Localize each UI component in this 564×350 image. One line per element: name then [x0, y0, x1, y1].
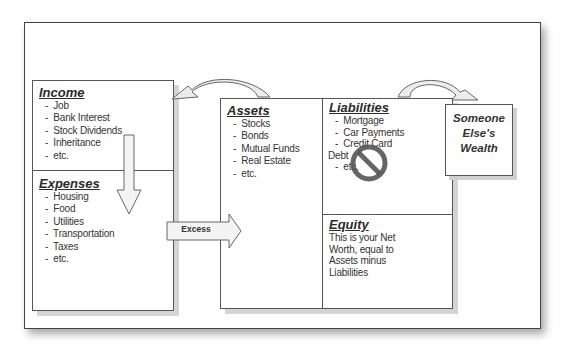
- expenses-section: Expenses Housing Food Utilities Transpor…: [33, 172, 173, 269]
- income-item: Job: [45, 100, 167, 112]
- wealth-line3: Wealth: [446, 141, 512, 156]
- assets-item: Stocks: [233, 118, 317, 130]
- assets-list: Stocks Bonds Mutual Funds Real Estate et…: [227, 118, 317, 180]
- wealth-line1: Someone: [446, 111, 512, 126]
- income-expenses-box: Income Job Bank Interest Stock Dividends…: [32, 80, 174, 311]
- expenses-item: Transportation: [45, 228, 167, 240]
- expenses-item: Utilities: [45, 216, 167, 228]
- assets-item: Bonds: [233, 130, 317, 142]
- wealth-line2: Else's: [446, 126, 512, 141]
- liabilities-item: Mortgage: [335, 115, 446, 127]
- balance-sheet-box: Assets Stocks Bonds Mutual Funds Real Es…: [220, 98, 453, 309]
- assets-heading: Assets: [227, 103, 317, 118]
- income-heading: Income: [39, 85, 167, 100]
- equity-section: Equity This is your Net Worth, equal to …: [323, 215, 452, 282]
- liabilities-section: Liabilities Mortgage Car Payments Credit…: [323, 99, 452, 177]
- income-item: Stock Dividends: [45, 125, 167, 137]
- assets-item: Mutual Funds: [233, 143, 317, 155]
- liabilities-item: etc.: [335, 161, 446, 173]
- income-section: Income Job Bank Interest Stock Dividends…: [33, 81, 173, 166]
- someone-elses-wealth-box: Someone Else's Wealth: [445, 104, 513, 176]
- liabilities-item: Car Payments: [335, 127, 446, 139]
- assets-section: Assets Stocks Bonds Mutual Funds Real Es…: [221, 99, 323, 184]
- expenses-item: Taxes: [45, 241, 167, 253]
- assets-item: Real Estate: [233, 155, 317, 167]
- income-item: etc.: [45, 150, 167, 162]
- income-item: Bank Interest: [45, 112, 167, 124]
- liabilities-item: Credit Card: [335, 138, 446, 150]
- assets-item: etc.: [233, 168, 317, 180]
- liabilities-tail-list: etc.: [329, 161, 446, 173]
- expenses-item: etc.: [45, 253, 167, 265]
- income-item: Inheritance: [45, 137, 167, 149]
- expenses-heading: Expenses: [39, 176, 167, 191]
- liabilities-list: Mortgage Car Payments Credit Card: [329, 115, 446, 150]
- excess-label: Excess: [172, 224, 220, 234]
- liabilities-heading: Liabilities: [329, 100, 446, 115]
- equity-heading: Equity: [329, 217, 446, 232]
- equity-description: This is your Net Worth, equal to Assets …: [329, 232, 405, 278]
- income-expenses-divider: [33, 170, 173, 171]
- expenses-list: Housing Food Utilities Transportation Ta…: [39, 191, 167, 265]
- expenses-item: Food: [45, 203, 167, 215]
- income-list: Job Bank Interest Stock Dividends Inheri…: [39, 100, 167, 162]
- liabilities-continuation: Debt: [328, 150, 446, 162]
- expenses-item: Housing: [45, 191, 167, 203]
